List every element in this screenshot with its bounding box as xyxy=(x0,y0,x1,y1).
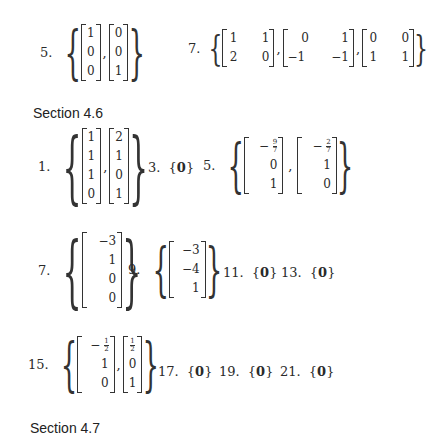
comma: , xyxy=(276,41,280,56)
vector: − 97 0 1 xyxy=(244,137,283,194)
vector: 12 0 1 xyxy=(123,336,143,393)
vector: −3 −4 1 xyxy=(169,241,206,298)
answer-19: 19. {0} xyxy=(219,364,273,379)
vector: 1 0 0 xyxy=(81,24,101,81)
vector: 0 0 1 xyxy=(109,24,129,81)
vector: 2 1 0 1 xyxy=(109,128,129,204)
fraction: 12 xyxy=(130,338,134,353)
fraction: 27 xyxy=(326,139,330,154)
right-brace: } xyxy=(337,133,354,199)
right-brace: } xyxy=(414,28,428,68)
vector: −3 1 0 0 xyxy=(82,232,123,308)
answer-label: 5. xyxy=(40,45,52,60)
vector: − 27 1 0 xyxy=(297,137,336,194)
answer-5-top: 5. { 1 0 0 , 0 0 1 } xyxy=(40,24,145,81)
answer-5: 5. { − 97 0 1 , − 27 1 0 } xyxy=(203,137,353,194)
matrix: 00 11 xyxy=(362,29,414,67)
answer-13: 13. {0} xyxy=(281,265,335,280)
answer-1: 1. { 1 1 1 0 , 2 1 0 1 } xyxy=(38,128,148,204)
matrix: 11 20 xyxy=(222,29,274,67)
left-brace: { xyxy=(62,225,81,316)
fraction: 97 xyxy=(273,139,277,154)
right-brace: } xyxy=(128,20,145,86)
right-brace: } xyxy=(206,237,223,303)
left-brace: { xyxy=(62,121,81,212)
left-brace: { xyxy=(227,133,244,199)
left-brace: { xyxy=(64,20,81,86)
right-brace: } xyxy=(142,332,159,398)
answer-17: 17. {0} xyxy=(158,364,212,379)
right-brace: } xyxy=(129,121,148,212)
fraction: 12 xyxy=(104,338,108,353)
left-brace: { xyxy=(152,237,169,303)
answer-21: 21. {0} xyxy=(280,364,334,379)
comma: , xyxy=(356,41,360,56)
left-brace: { xyxy=(61,332,78,398)
answer-11: 11. {0} xyxy=(223,265,277,280)
left-brace: { xyxy=(208,28,222,68)
answer-7: 7. { −3 1 0 0 } xyxy=(38,232,141,308)
answer-15: 15. { − 12 1 0 , 12 0 1 } xyxy=(28,336,159,393)
section-heading-4-6: Section 4.6 xyxy=(33,105,103,121)
answer-7-top: 7. { 11 20 , 01 −1−1 , 00 11 } xyxy=(188,29,428,67)
vector: 1 1 1 0 xyxy=(82,128,102,204)
section-heading-4-7: Section 4.7 xyxy=(30,420,100,436)
comma: , xyxy=(103,45,107,60)
vector: − 12 1 0 xyxy=(77,336,114,393)
answer-label: 7. xyxy=(188,41,200,56)
matrix: 01 −1−1 xyxy=(283,29,354,67)
answer-3: 3. {0} xyxy=(148,160,194,175)
answer-9: 9. { −3 −4 1 } xyxy=(128,241,222,298)
